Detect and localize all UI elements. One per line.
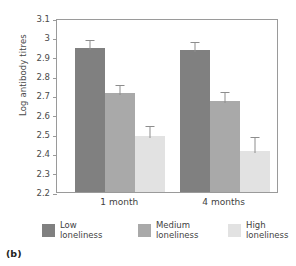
bar-fill bbox=[135, 136, 165, 192]
bar bbox=[135, 136, 165, 192]
legend-item: Medium loneliness bbox=[138, 221, 198, 240]
y-tick-label: 2.2 bbox=[36, 188, 50, 198]
y-tick-label: 2.3 bbox=[36, 169, 50, 179]
panel-label: (b) bbox=[6, 248, 21, 259]
legend-label: Low loneliness bbox=[60, 221, 102, 240]
legend-item: High loneliness bbox=[228, 221, 288, 240]
error-bar-line bbox=[254, 137, 255, 153]
error-bar-line bbox=[150, 126, 151, 138]
legend-label: High loneliness bbox=[246, 221, 288, 240]
error-bar-cap bbox=[146, 126, 155, 127]
legend-swatch bbox=[228, 224, 241, 237]
figure-panel-b: Log antibody titres 2.22.32.42.52.62.72.… bbox=[0, 0, 296, 266]
x-axis-label: 4 months bbox=[179, 197, 269, 207]
bar-fill bbox=[180, 50, 210, 192]
y-tick-mark bbox=[53, 194, 57, 195]
legend-swatch bbox=[42, 224, 55, 237]
bar bbox=[210, 101, 240, 192]
error-bar-cap bbox=[116, 85, 125, 86]
error-bar-cap bbox=[220, 92, 229, 93]
error-bar-line bbox=[224, 92, 225, 103]
plot-area: 2.22.32.42.52.62.72.82.933.1 bbox=[56, 19, 278, 193]
legend-item: Low loneliness bbox=[42, 221, 102, 240]
error-bar-line bbox=[90, 40, 91, 50]
y-tick-mark bbox=[53, 174, 57, 175]
bar-fill bbox=[105, 93, 135, 192]
error-bar-line bbox=[194, 42, 195, 53]
y-axis-title: Log antibody titres bbox=[18, 5, 28, 145]
y-tick-label: 2.9 bbox=[36, 53, 50, 63]
error-bar-cap bbox=[250, 137, 259, 138]
legend-swatch bbox=[138, 224, 151, 237]
bar-fill bbox=[240, 151, 270, 192]
bar-group bbox=[75, 20, 165, 192]
bar-fill bbox=[210, 101, 240, 192]
legend-label: Medium loneliness bbox=[156, 221, 198, 240]
bar bbox=[75, 48, 105, 192]
y-tick-mark bbox=[53, 97, 57, 98]
y-tick-label: 3.1 bbox=[36, 14, 50, 24]
error-bar-line bbox=[120, 85, 121, 94]
bar-group bbox=[180, 20, 270, 192]
y-tick-mark bbox=[53, 136, 57, 137]
bar bbox=[240, 151, 270, 192]
y-tick-mark bbox=[53, 155, 57, 156]
y-tick-label: 3 bbox=[45, 33, 50, 43]
bar bbox=[105, 93, 135, 192]
y-tick-mark bbox=[53, 39, 57, 40]
y-tick-label: 2.7 bbox=[36, 91, 50, 101]
y-tick-label: 2.6 bbox=[36, 111, 50, 121]
y-tick-mark bbox=[53, 58, 57, 59]
y-tick-label: 2.4 bbox=[36, 149, 50, 159]
y-tick-label: 2.8 bbox=[36, 72, 50, 82]
y-tick-mark bbox=[53, 78, 57, 79]
error-bar-cap bbox=[86, 40, 95, 41]
error-bar-cap bbox=[190, 42, 199, 43]
y-tick-label: 2.5 bbox=[36, 130, 50, 140]
y-tick-mark bbox=[53, 116, 57, 117]
bar bbox=[180, 50, 210, 192]
y-tick-mark bbox=[53, 20, 57, 21]
bar-fill bbox=[75, 48, 105, 192]
x-axis-label: 1 month bbox=[74, 197, 164, 207]
